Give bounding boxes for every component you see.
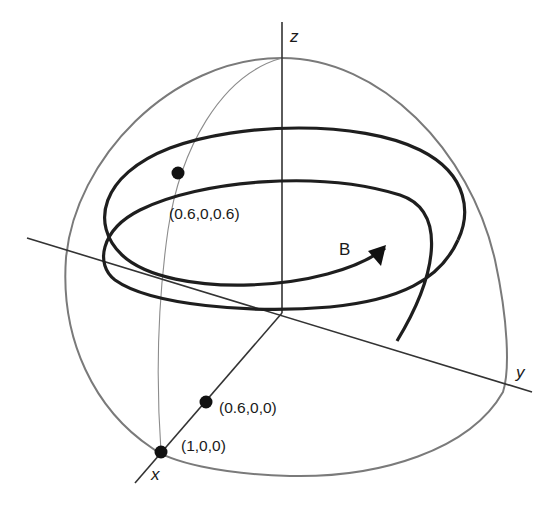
point-label-0.6-0-0: (0.6,0,0)	[219, 399, 277, 416]
point-0.6-0-0.6	[172, 167, 185, 180]
point-0.6-0-0	[200, 396, 213, 409]
helix-lower-loop	[104, 181, 458, 341]
field-label-B: B	[339, 240, 350, 259]
helix-upper-loop	[105, 128, 465, 285]
meridian-curve	[158, 58, 282, 452]
sphere-helix-diagram: z y x (0.6,0,0.6) (0.6,0,0) (1,0,0) B	[0, 0, 555, 505]
point-1-0-0	[155, 446, 168, 459]
point-label-0.6-0-0.6: (0.6,0,0.6)	[169, 205, 240, 222]
z-axis-label: z	[289, 27, 299, 46]
x-axis-label: x	[150, 465, 160, 484]
arrowhead-icon	[368, 245, 386, 266]
y-axis-label: y	[515, 363, 526, 382]
point-label-1-0-0: (1,0,0)	[181, 437, 226, 454]
